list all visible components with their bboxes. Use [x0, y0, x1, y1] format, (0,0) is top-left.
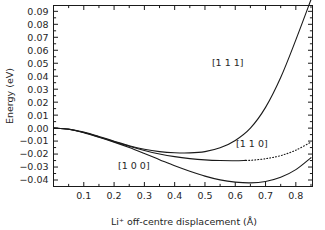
y-tick-label: 0.02 — [27, 97, 48, 108]
y-tick-label: 0.01 — [27, 110, 48, 121]
x-tick-label: 0.4 — [167, 190, 182, 201]
series-label-110: [1 1 0] — [236, 138, 268, 149]
y-tick-label: 0.05 — [27, 58, 48, 69]
energy-displacement-plot: −0.04−0.03−0.02−0.010.000.010.020.030.04… — [0, 0, 325, 230]
y-tick-label: 0.04 — [27, 71, 48, 82]
y-tick-label: −0.04 — [19, 174, 48, 185]
y-tick-label: 0.06 — [27, 45, 48, 56]
y-tick-label: 0.03 — [27, 84, 48, 95]
x-tick-label: 0.2 — [107, 190, 122, 201]
x-tick-label: 0.3 — [137, 190, 152, 201]
y-tick-label: 0.00 — [27, 123, 48, 134]
plot-background — [0, 0, 325, 230]
x-tick-label: 0.7 — [258, 190, 273, 201]
x-tick-label: 0.6 — [228, 190, 243, 201]
y-tick-label: −0.02 — [19, 148, 48, 159]
x-tick-label: 0.8 — [288, 190, 303, 201]
chart-figure: −0.04−0.03−0.02−0.010.000.010.020.030.04… — [0, 0, 325, 230]
series-label-111: [1 1 1] — [212, 57, 244, 68]
x-tick-label: 0.1 — [76, 190, 91, 201]
series-label-100: [1 0 0] — [118, 160, 150, 171]
y-tick-label: −0.03 — [19, 161, 48, 172]
x-axis-title: Li⁺ off-centre displacement (Å) — [111, 216, 257, 227]
y-tick-label: 0.09 — [27, 6, 48, 17]
y-tick-label: 0.08 — [27, 19, 48, 30]
y-tick-label: 0.07 — [27, 32, 48, 43]
y-axis-title: Energy (eV) — [4, 68, 15, 124]
x-tick-label: 0.5 — [197, 190, 212, 201]
y-tick-label: −0.01 — [19, 135, 48, 146]
